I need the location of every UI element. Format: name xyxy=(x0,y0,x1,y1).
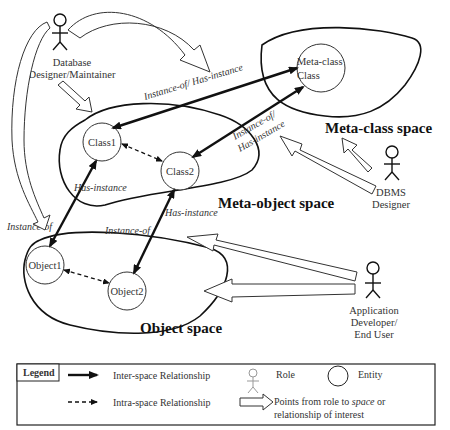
role-pointer-arrow-app-to-relationship xyxy=(187,234,357,281)
legend: Legend Inter-space Relationship Intra-sp… xyxy=(17,364,435,425)
role-label: End User xyxy=(354,329,394,340)
meta-class-space-label: Meta-class space xyxy=(325,120,432,136)
role-pointer-arrow-app-to-object xyxy=(204,279,355,302)
role-pointer-arrow-db-to-object-rel xyxy=(12,22,50,230)
stick-figure-icon xyxy=(365,262,381,298)
stick-figure-icon xyxy=(52,14,68,50)
entity-label: Object1 xyxy=(28,260,61,271)
legend-entity-label: Entity xyxy=(358,369,382,380)
entity-meta-class-class: Meta-class Class xyxy=(297,44,345,92)
role-label: Designer xyxy=(372,199,410,210)
intra-space-arrow-class1-class2 xyxy=(122,144,162,161)
role-dbms-designer: DBMS Designer xyxy=(372,146,410,210)
role-label: Application xyxy=(349,305,399,316)
legend-inter-space-label: Inter-space Relationship xyxy=(113,370,210,381)
role-label: Database xyxy=(53,57,92,68)
entity-label: Meta-class xyxy=(297,56,342,67)
role-label: Designer/Maintainer xyxy=(29,69,116,80)
stick-figure-icon xyxy=(384,146,400,180)
diagram-canvas: Meta-class Class Class1 Class2 Object1 O… xyxy=(0,0,450,430)
legend-title: Legend xyxy=(23,367,55,378)
relationship-label: Instance-of xyxy=(104,225,151,236)
legend-pointer-label-line2: relationship of interest xyxy=(274,409,364,420)
entity-class1: Class1 xyxy=(83,123,121,161)
role-label: Developer/ xyxy=(351,317,398,328)
intra-space-arrow-object1-object2 xyxy=(64,270,109,283)
legend-pointer-label: Points from role to space or xyxy=(274,396,386,407)
entity-label: Class1 xyxy=(88,137,116,148)
object-space-label: Object space xyxy=(140,320,222,336)
role-label: DBMS xyxy=(376,187,406,198)
entity-object1: Object1 xyxy=(26,246,64,284)
legend-entity-icon xyxy=(328,366,348,386)
entity-label: Object2 xyxy=(110,286,143,297)
entity-label: Class2 xyxy=(166,166,194,177)
relationship-label: Instance-of/ Has-instance xyxy=(141,61,244,102)
legend-intra-space-label: Intra-space Relationship xyxy=(113,397,210,408)
relationship-label: Has-instance xyxy=(73,182,127,193)
entity-class2: Class2 xyxy=(161,152,199,190)
entity-label: Class xyxy=(297,70,320,81)
role-pointer-arrow-db-to-metaobject xyxy=(58,81,92,112)
role-pointer-arrow-dbms-to-metaclass xyxy=(342,138,372,172)
meta-object-space-label: Meta-object space xyxy=(218,195,335,211)
legend-role-label: Role xyxy=(276,369,295,380)
relationship-label: Has-instance xyxy=(164,207,218,218)
entity-object2: Object2 xyxy=(108,272,146,310)
